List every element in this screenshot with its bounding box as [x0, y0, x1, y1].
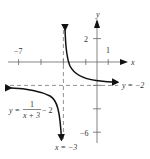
y-axis-label: y [95, 10, 100, 19]
curve-right-branch [65, 30, 118, 82]
tick-label-2: 2 [84, 35, 88, 44]
tick-label-neg6: −6 [80, 129, 89, 138]
x-axis-label: x [130, 58, 135, 67]
function-label: y = 1 x + 3 − 2 [8, 100, 53, 120]
tick-label-neg7: −7 [14, 47, 23, 56]
tick-label-1: 1 [106, 46, 110, 55]
rational-function-graph: y x −7 1 2 −6 y = −2 x = −3 y = 1 x + 3 … [0, 0, 150, 159]
function-tail: − 2 [42, 106, 53, 115]
function-denominator: x + 3 [22, 111, 40, 120]
function-lhs: y = [8, 106, 20, 115]
y-axis-arrow-icon [94, 19, 100, 28]
function-numerator: 1 [30, 100, 34, 109]
x-axis-arrow-icon [120, 59, 128, 65]
horizontal-asymptote-label: y = −2 [121, 81, 144, 90]
vertical-asymptote-label: x = −3 [54, 143, 77, 152]
